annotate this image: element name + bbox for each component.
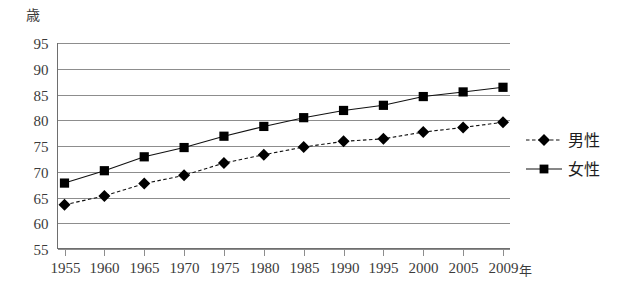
data-point-female	[419, 92, 428, 101]
y-tick-label: 90	[34, 62, 49, 78]
y-tick-label: 65	[34, 191, 49, 207]
data-point-female	[339, 106, 348, 115]
data-point-male	[497, 116, 509, 128]
x-tick-label: 1970	[170, 260, 200, 276]
gridlines-group	[58, 44, 511, 250]
data-point-male	[457, 121, 469, 133]
y-tick-labels-group: 556065707580859095	[34, 36, 49, 258]
x-tick-marks-group	[66, 249, 504, 256]
data-point-male	[218, 157, 230, 169]
legend-marker-male	[538, 134, 550, 146]
x-tick-label: 2005	[449, 260, 479, 276]
x-tick-labels-group: 1955196019651970197519801985199019952000…	[51, 260, 519, 276]
x-tick-label: 1995	[369, 260, 399, 276]
data-point-female	[299, 113, 308, 122]
series-line-female	[65, 87, 504, 183]
chart-container: 歳 556065707580859095 1955196019651970197…	[0, 0, 617, 298]
data-point-male	[338, 135, 350, 147]
y-tick-label: 55	[34, 242, 49, 258]
legend-marker-female	[540, 165, 549, 174]
data-point-male	[298, 141, 310, 153]
y-tick-label: 85	[34, 88, 49, 104]
x-tick-label: 2009	[489, 260, 519, 276]
x-tick-label: 1955	[51, 260, 81, 276]
series-line-male	[65, 122, 504, 204]
x-tick-label: 1960	[90, 260, 120, 276]
y-tick-label: 80	[34, 113, 49, 129]
x-axis-unit-group: 年	[519, 263, 532, 278]
data-point-female	[459, 87, 468, 96]
data-point-male	[417, 126, 429, 138]
data-point-female	[259, 122, 268, 131]
x-axis-unit-label: 年	[519, 263, 532, 278]
y-tick-label: 75	[34, 139, 49, 155]
y-tick-label: 70	[34, 165, 49, 181]
y-tick-label: 60	[34, 216, 49, 232]
y-axis-unit-label: 歳	[26, 8, 40, 23]
data-point-male	[98, 190, 110, 202]
data-point-female	[100, 166, 109, 175]
data-point-male	[59, 199, 71, 211]
data-point-female	[219, 132, 228, 141]
data-point-female	[179, 143, 188, 152]
data-point-male	[138, 178, 150, 190]
x-tick-label: 2000	[409, 260, 439, 276]
y-axis-unit-group: 歳	[26, 8, 40, 23]
chart-legend: 男性女性	[526, 132, 600, 178]
x-tick-label: 1975	[210, 260, 240, 276]
data-point-male	[258, 149, 270, 161]
x-tick-label: 1985	[290, 260, 320, 276]
x-tick-label: 1980	[250, 260, 280, 276]
y-tick-label: 95	[34, 36, 49, 52]
data-point-female	[498, 83, 507, 92]
life-expectancy-line-chart: 歳 556065707580859095 1955196019651970197…	[0, 0, 617, 298]
legend-label-male: 男性	[568, 132, 600, 149]
x-tick-label: 1965	[130, 260, 160, 276]
data-point-female	[379, 101, 388, 110]
legend-label-female: 女性	[568, 160, 600, 178]
x-tick-label: 1990	[330, 260, 360, 276]
data-point-female	[140, 152, 149, 161]
data-point-male	[377, 133, 389, 145]
data-point-male	[178, 169, 190, 181]
data-point-female	[60, 178, 69, 187]
